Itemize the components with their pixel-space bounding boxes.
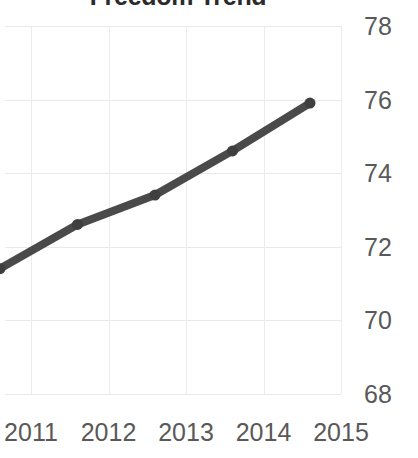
- y-tick-label: 74: [364, 161, 412, 186]
- y-tick-label: 68: [364, 382, 412, 407]
- y-tick-label: 70: [364, 308, 412, 333]
- data-point-2014: [227, 145, 238, 156]
- series-layer: [0, 0, 387, 432]
- y-tick-label: 76: [364, 88, 412, 113]
- y-tick-label: 72: [364, 235, 412, 260]
- x-tick-label: 2015: [291, 420, 391, 445]
- data-point-2015: [305, 98, 316, 109]
- data-point-2012: [72, 219, 83, 230]
- y-tick-label: 78: [364, 14, 412, 39]
- series-line-freedom-score: [0, 103, 310, 269]
- data-point-2013: [150, 190, 161, 201]
- series-markers: [0, 98, 316, 275]
- line-chart: Freedom Trend 78 76 74 72 70 68 2011 201…: [0, 0, 418, 458]
